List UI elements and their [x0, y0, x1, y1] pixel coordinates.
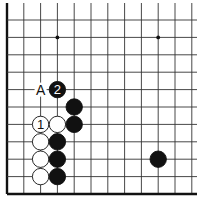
- white-stone-icon: [32, 151, 48, 167]
- move-number: 1: [37, 117, 44, 132]
- black-stone-icon: [49, 151, 65, 167]
- black-stone: [66, 99, 82, 115]
- black-stone-icon: [49, 168, 65, 184]
- move-number: 2: [54, 82, 61, 97]
- stones: 21: [32, 81, 166, 184]
- white-stone: [49, 116, 65, 132]
- black-stone-icon: [66, 116, 82, 132]
- board-markers: A: [35, 82, 47, 98]
- black-stone: [49, 151, 65, 167]
- white-stone: [32, 151, 48, 167]
- black-stone: [66, 116, 82, 132]
- black-stone: [150, 151, 166, 167]
- black-stone: [49, 134, 65, 150]
- black-stone-icon: [150, 151, 166, 167]
- star-point-icon: [156, 36, 160, 40]
- black-stone: [49, 168, 65, 184]
- black-stone-icon: [66, 99, 82, 115]
- white-stone-icon: [32, 168, 48, 184]
- star-point-icon: [56, 36, 60, 40]
- white-stone-icon: [32, 134, 48, 150]
- white-stone: [32, 134, 48, 150]
- black-stone-2: 2: [49, 81, 65, 97]
- white-stone-icon: [49, 116, 65, 132]
- go-board: A 21: [0, 0, 201, 200]
- white-stone-1: 1: [32, 116, 48, 132]
- white-stone: [32, 168, 48, 184]
- marker-label-a: A: [36, 82, 46, 98]
- black-stone-icon: [49, 134, 65, 150]
